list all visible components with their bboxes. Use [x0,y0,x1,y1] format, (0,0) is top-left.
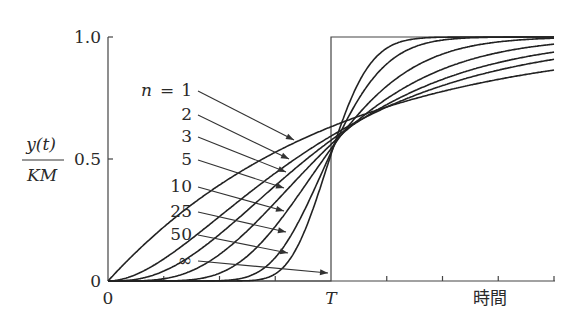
y-axis-denominator: KM [26,165,58,185]
arrowhead-icon [320,269,328,275]
arrow-line [198,160,284,188]
arrow-line [198,115,289,159]
x-axis-title: 時間 [473,288,507,308]
equals-sign: = [160,80,174,100]
arrowhead-icon [286,134,294,140]
y-axis-title: y(t) KM [22,134,64,185]
n-variable-label: n [141,80,152,100]
y-tick-label-1: 1.0 [74,27,101,47]
arrow-line [198,235,288,253]
series-label-25: 25 [170,201,192,221]
arrow-line [198,261,328,273]
arrowhead-icon [280,153,289,159]
series-label-5: 5 [181,149,192,169]
arrowhead-icon [280,248,288,254]
arrowhead-icon [275,206,284,212]
series-label-2: 2 [181,104,192,124]
series-label-infinity: ∞ [178,250,192,270]
axes [108,37,555,281]
y-tick-label-0: 0 [90,271,101,291]
series-label-50: 50 [170,224,192,244]
y-tick-label-05: 0.5 [74,149,101,169]
series-labels: n = 1 2 3 5 10 25 50 ∞ [141,80,192,270]
x-tick-label-0: 0 [103,288,114,308]
x-tick-label-T: T [325,288,338,308]
arrow-line [198,137,286,172]
arrow-line [198,91,294,140]
erlang-response-chart: 1.0 0.5 0 y(t) KM 0 T 時間 n = 1 2 3 5 10 … [0,0,580,329]
y-axis-numerator: y(t) [25,134,56,154]
series-label-3: 3 [181,126,192,146]
arrow-line [198,187,284,211]
series-label-1: 1 [181,80,192,100]
series-label-10: 10 [170,176,192,196]
